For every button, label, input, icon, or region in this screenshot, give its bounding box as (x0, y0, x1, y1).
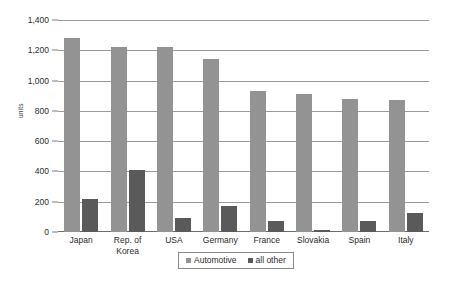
x-axis-label: Rep. of Korea (104, 235, 150, 256)
y-tick-label: 200 (35, 197, 49, 206)
x-axis-label: Japan (58, 235, 104, 256)
legend-label: all other (256, 255, 286, 265)
bar-group (151, 20, 197, 232)
bar (203, 59, 219, 232)
bar-group (290, 20, 336, 232)
bar (111, 47, 127, 232)
bar (268, 221, 284, 232)
bar (360, 221, 376, 232)
bar (82, 199, 98, 232)
legend-swatch-icon (248, 258, 253, 263)
bar-groups (58, 20, 429, 232)
bar-group (336, 20, 382, 232)
y-tick-label: 600 (35, 137, 49, 146)
legend-swatch-icon (186, 258, 191, 263)
x-axis-label: Slovakia (290, 235, 336, 256)
y-tick-label: 400 (35, 167, 49, 176)
bar-group (244, 20, 290, 232)
bar-group (104, 20, 150, 232)
legend-label: Automotive (194, 255, 237, 265)
y-axis: 1,400 1,200 1,000 800 600 400 200 0 (0, 20, 58, 232)
y-axis-title: units (17, 103, 24, 118)
y-tick-label: 1,000 (28, 76, 49, 85)
bar (250, 91, 266, 232)
bar (129, 170, 145, 232)
y-tick-label: 1,200 (28, 46, 49, 55)
x-axis-label: Italy (383, 235, 429, 256)
y-tick-label: 1,400 (28, 16, 49, 25)
bar (296, 94, 312, 232)
bar (221, 206, 237, 232)
bar-group (58, 20, 104, 232)
bar (64, 38, 80, 232)
bar (389, 100, 405, 232)
bar (407, 213, 423, 232)
y-tick-label: 0 (44, 228, 49, 237)
legend-item-automotive: Automotive (186, 255, 237, 265)
x-axis-label: Spain (336, 235, 382, 256)
bar-group (197, 20, 243, 232)
y-tick-label: 800 (35, 106, 49, 115)
bar (342, 99, 358, 232)
bar-group (383, 20, 429, 232)
chart-legend: Automotive all other (178, 252, 294, 269)
bar (157, 47, 173, 232)
bar (314, 230, 330, 232)
legend-item-all-other: all other (248, 255, 286, 265)
bar (175, 218, 191, 232)
bar-chart: 1,400 1,200 1,000 800 600 400 200 0 unit… (0, 0, 475, 284)
plot-area (58, 20, 429, 232)
